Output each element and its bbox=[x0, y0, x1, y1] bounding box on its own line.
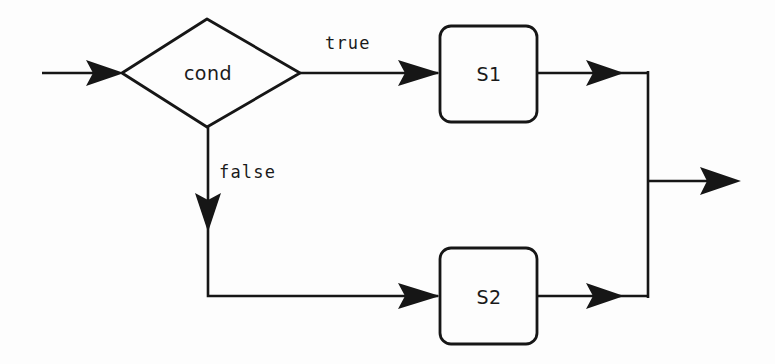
then-branch-node: S1 bbox=[440, 26, 537, 122]
then-branch-label: S1 bbox=[476, 63, 501, 85]
edge-false-branch: false bbox=[195, 127, 440, 309]
else-branch-node: S2 bbox=[440, 248, 537, 344]
else-branch-label: S2 bbox=[476, 286, 501, 308]
decision-label: cond bbox=[184, 62, 232, 84]
edge-else-merge bbox=[537, 283, 649, 309]
true-branch-label: true bbox=[325, 33, 371, 53]
edge-true-branch: true bbox=[300, 33, 440, 86]
false-branch-line bbox=[208, 127, 438, 296]
edge-entry bbox=[42, 60, 124, 86]
edge-exit bbox=[648, 71, 741, 298]
edge-then-merge bbox=[537, 60, 649, 86]
flowchart-canvas: cond true S1 false S2 bbox=[0, 0, 775, 364]
decision-node: cond bbox=[122, 19, 300, 127]
flowchart-diagram: cond true S1 false S2 bbox=[0, 0, 775, 364]
false-branch-label: false bbox=[219, 162, 276, 182]
